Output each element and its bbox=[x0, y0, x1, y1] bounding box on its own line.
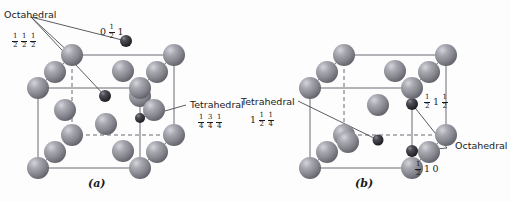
fraction-denominator: 2 bbox=[259, 121, 265, 129]
fraction-denominator: 2 bbox=[424, 103, 430, 111]
coord-part-y-fraction: 1 2 bbox=[109, 24, 115, 40]
coord-part-a-fraction: 1 2 bbox=[12, 33, 18, 49]
label-octahedral-a: Octahedral bbox=[4, 10, 57, 20]
host-atom bbox=[146, 61, 168, 83]
host-atom bbox=[61, 44, 83, 66]
host-atom bbox=[418, 141, 440, 163]
label-octahedral-b: Octahedral bbox=[455, 141, 508, 151]
coord-part-c-fraction: 1 2 bbox=[442, 94, 448, 110]
host-atom bbox=[54, 99, 76, 121]
host-atom bbox=[44, 141, 66, 163]
host-atom bbox=[333, 44, 355, 66]
panel-a-atoms-front bbox=[27, 77, 151, 179]
coord-part-whole: 1 bbox=[433, 97, 439, 107]
host-atom bbox=[316, 61, 338, 83]
host-atom bbox=[435, 124, 457, 146]
host-atom bbox=[163, 44, 185, 66]
host-atom bbox=[418, 61, 440, 83]
coord-part-whole-c: 0 bbox=[433, 164, 439, 174]
fraction-denominator: 4 bbox=[268, 121, 274, 129]
host-atom bbox=[27, 77, 49, 99]
coord-part-c-fraction: 1 2 bbox=[30, 33, 36, 49]
host-atom bbox=[146, 141, 168, 163]
coord-part-z: 1 bbox=[118, 27, 124, 37]
interstitial-atom-octahedral bbox=[99, 90, 111, 102]
coord-label-tetrahedral-b: 1 1 2 1 4 bbox=[250, 112, 274, 128]
host-atom bbox=[299, 157, 321, 179]
coord-part-x: 0 bbox=[100, 27, 106, 37]
panel-b-atoms-front bbox=[299, 77, 423, 179]
host-atom bbox=[163, 124, 185, 146]
host-atom bbox=[129, 157, 151, 179]
label-tetrahedral-a: Tetrahedral bbox=[190, 100, 244, 110]
label-tetrahedral-b: Tetrahedral bbox=[241, 97, 295, 107]
panel-a-atoms-back bbox=[61, 44, 185, 162]
panel-b-group bbox=[298, 44, 457, 179]
interstitial-atom-octahedral bbox=[406, 145, 418, 157]
panel-a-group bbox=[27, 17, 186, 179]
host-atom bbox=[112, 140, 134, 162]
interstitial-atom-tetrahedral bbox=[135, 113, 145, 123]
fraction-denominator: 2 bbox=[442, 103, 448, 111]
host-atom bbox=[316, 141, 338, 163]
host-atom bbox=[401, 77, 423, 99]
coord-part-a-fraction: 1 4 bbox=[198, 114, 204, 130]
host-atom bbox=[384, 60, 406, 82]
coord-label-octahedral-b-upper: 1 2 1 1 2 bbox=[424, 94, 448, 110]
coord-part-a-fraction: 1 2 bbox=[424, 94, 430, 110]
host-atom bbox=[112, 60, 134, 82]
coord-label-body-center-a: 1 2 1 2 1 2 bbox=[12, 33, 36, 49]
coord-part-b-fraction: 1 2 bbox=[259, 112, 265, 128]
crystal-structure-figure: Octahedral 0 1 2 1 1 2 1 2 1 2 Tetrahedr… bbox=[0, 0, 511, 202]
fraction-denominator: 4 bbox=[207, 123, 213, 131]
host-atom bbox=[435, 44, 457, 66]
coord-part-b-fraction: 3 4 bbox=[207, 114, 213, 130]
fraction-denominator: 4 bbox=[216, 123, 222, 131]
panel-caption-a: (a) bbox=[88, 177, 106, 190]
coord-label-octahedral-a: 0 1 2 1 bbox=[100, 24, 124, 40]
interstitial-atom-octahedral bbox=[406, 98, 418, 110]
host-atom bbox=[44, 61, 66, 83]
host-atom bbox=[337, 131, 359, 153]
coord-part-a-fraction: 1 2 bbox=[415, 161, 421, 177]
coord-label-octahedral-b-lower: 1 2 1 0 bbox=[415, 161, 439, 177]
coord-label-tetrahedral-a: 1 4 3 4 1 4 bbox=[198, 114, 222, 130]
host-atom bbox=[95, 113, 117, 135]
host-atom bbox=[129, 77, 151, 99]
fraction-denominator: 2 bbox=[12, 42, 18, 50]
host-atom bbox=[299, 77, 321, 99]
fraction-denominator: 2 bbox=[30, 42, 36, 50]
interstitial-atom-tetrahedral bbox=[373, 135, 384, 146]
host-atom bbox=[27, 157, 49, 179]
coord-part-c-fraction: 1 4 bbox=[216, 114, 222, 130]
host-atom bbox=[367, 94, 389, 116]
fraction-denominator: 2 bbox=[415, 170, 421, 178]
coord-part-whole-b: 1 bbox=[424, 164, 430, 174]
fraction-denominator: 2 bbox=[109, 33, 115, 41]
coord-part-whole: 1 bbox=[250, 115, 256, 125]
host-atom bbox=[61, 124, 83, 146]
panel-caption-b: (b) bbox=[355, 177, 373, 190]
fraction-denominator: 2 bbox=[21, 42, 27, 50]
coord-part-c-fraction: 1 4 bbox=[268, 112, 274, 128]
host-atom bbox=[143, 99, 165, 121]
fraction-denominator: 4 bbox=[198, 123, 204, 131]
coord-part-b-fraction: 1 2 bbox=[21, 33, 27, 49]
